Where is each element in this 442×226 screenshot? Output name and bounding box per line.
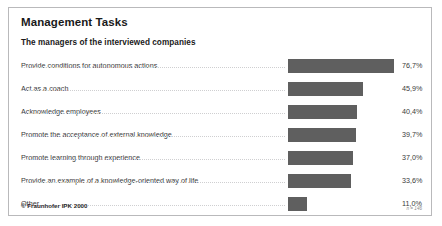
page-title: Management Tasks <box>21 16 431 29</box>
chart-row: Promote the acceptance of external knowl… <box>9 126 431 149</box>
chart-bar-track <box>288 197 394 211</box>
leader-line <box>21 181 285 183</box>
chart-bar-track <box>288 128 394 142</box>
chart-row: Act as a coach45,9% <box>9 80 431 103</box>
chart-bar <box>288 59 394 73</box>
leader-line <box>21 112 285 114</box>
chart-value-label: 76,7% <box>402 61 422 70</box>
chart-bar-track <box>288 82 394 96</box>
chart-bar <box>288 197 307 211</box>
bar-chart: Provide conditions for autonomous action… <box>9 57 431 218</box>
chart-bar <box>288 105 357 119</box>
leader-line <box>21 135 285 137</box>
chart-bar <box>288 82 363 96</box>
copyright-note: © Fraunhofer IPK 2000 <box>21 202 87 209</box>
chart-bar <box>288 128 356 142</box>
chart-value-label: 45,9% <box>402 84 422 93</box>
page-subtitle: The managers of the interviewed companie… <box>21 38 431 48</box>
leader-line <box>21 158 285 160</box>
chart-row: Acknowledge employees40,4% <box>9 103 431 126</box>
chart-bar <box>288 174 351 188</box>
slide-frame: Management Tasks The managers of the int… <box>8 7 432 216</box>
chart-bar-track <box>288 151 394 165</box>
chart-value-label: 39,7% <box>402 130 422 139</box>
chart-bar-track <box>288 174 394 188</box>
leader-line <box>21 66 285 68</box>
chart-bar-track <box>288 59 394 73</box>
slide-header: Management Tasks The managers of the int… <box>9 8 431 48</box>
leader-line <box>21 89 285 91</box>
chart-value-label: 37,0% <box>402 153 422 162</box>
chart-row: Promote learning through experience37,0% <box>9 149 431 172</box>
chart-value-label: 40,4% <box>402 107 422 116</box>
chart-bar-track <box>288 105 394 119</box>
sample-size-note: n = 146 <box>407 206 422 211</box>
chart-row: Provide an example of a knowledge-orient… <box>9 172 431 195</box>
chart-value-label: 33,6% <box>402 176 422 185</box>
chart-row: Provide conditions for autonomous action… <box>9 57 431 80</box>
chart-bar <box>288 151 353 165</box>
